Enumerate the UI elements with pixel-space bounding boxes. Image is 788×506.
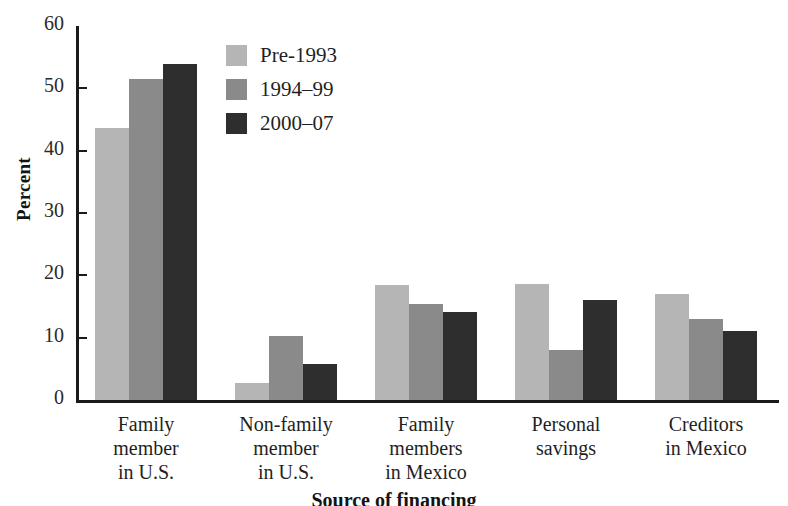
x-category-label: Familymembersin Mexico — [346, 412, 506, 484]
bar — [515, 284, 549, 400]
y-tick-mark — [79, 274, 87, 276]
legend-item: 2000–07 — [226, 106, 337, 140]
x-category-label: Non-familymemberin U.S. — [206, 412, 366, 484]
x-category-label: Familymemberin U.S. — [66, 412, 226, 484]
bar — [409, 304, 443, 400]
bar — [549, 350, 583, 400]
legend-swatch-icon — [226, 113, 247, 134]
bar — [95, 128, 129, 400]
y-tick-label: 40 — [14, 137, 64, 160]
y-tick-label: 20 — [14, 261, 64, 284]
y-tick-mark — [79, 150, 87, 152]
y-tick-label: 30 — [14, 199, 64, 222]
bar-chart: Percent 0102030405060 Pre-19931994–99200… — [0, 0, 788, 506]
x-category-label-line: Creditors — [626, 412, 786, 436]
x-category-label-line: savings — [486, 436, 646, 460]
y-tick-mark — [79, 87, 87, 89]
bar — [129, 79, 163, 400]
bar — [655, 294, 689, 400]
legend-swatch-icon — [226, 79, 247, 100]
x-category-label-line: in Mexico — [626, 436, 786, 460]
bar — [375, 285, 409, 400]
bar — [303, 364, 337, 400]
x-category-label-line: in U.S. — [66, 460, 226, 484]
plot-area: 0102030405060 — [76, 26, 776, 400]
legend-label: Pre-1993 — [260, 43, 337, 68]
bar — [269, 336, 303, 400]
x-category-label-line: Personal — [486, 412, 646, 436]
bar — [689, 319, 723, 400]
y-tick-label: 50 — [14, 74, 64, 97]
x-category-label-line: Family — [66, 412, 226, 436]
bar — [163, 64, 197, 400]
x-category-label-line: in Mexico — [346, 460, 506, 484]
x-category-label: Personalsavings — [486, 412, 646, 460]
y-tick-label: 60 — [14, 12, 64, 35]
chart-title-clipped — [14, 0, 774, 3]
x-axis-title: Source of financing — [0, 489, 788, 506]
x-category-label-line: Family — [346, 412, 506, 436]
legend-label: 1994–99 — [260, 77, 334, 102]
x-category-label-line: member — [66, 436, 226, 460]
bar — [583, 300, 617, 400]
y-tick-label: 0 — [14, 386, 64, 409]
bar — [443, 312, 477, 400]
x-category-label-line: Non-family — [206, 412, 366, 436]
legend: Pre-19931994–992000–07 — [226, 38, 337, 140]
x-category-label-line: in U.S. — [206, 460, 366, 484]
legend-item: 1994–99 — [226, 72, 337, 106]
x-axis-line — [76, 400, 779, 403]
legend-swatch-icon — [226, 45, 247, 66]
bar — [723, 331, 757, 400]
y-tick-mark — [79, 337, 87, 339]
x-category-label-line: members — [346, 436, 506, 460]
y-tick-mark — [79, 212, 87, 214]
y-tick-label: 10 — [14, 324, 64, 347]
legend-label: 2000–07 — [260, 111, 334, 136]
x-category-label: Creditorsin Mexico — [626, 412, 786, 460]
legend-item: Pre-1993 — [226, 38, 337, 72]
bar — [235, 383, 269, 400]
x-category-label-line: member — [206, 436, 366, 460]
